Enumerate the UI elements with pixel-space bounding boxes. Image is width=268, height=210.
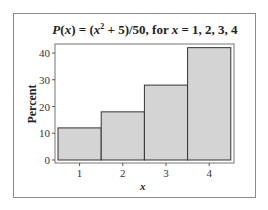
x-tick-label: 1 xyxy=(77,167,83,179)
y-tick-label: 30 xyxy=(39,74,51,86)
y-axis-label: Percent xyxy=(25,74,40,134)
bar-2 xyxy=(101,112,144,160)
x-tick-label: 2 xyxy=(120,167,126,179)
plot-area: 1234010203040 xyxy=(0,0,268,210)
x-tick-label: 4 xyxy=(206,167,212,179)
y-tick-label: 40 xyxy=(39,47,51,59)
y-tick-label: 20 xyxy=(39,101,51,113)
y-tick-label: 10 xyxy=(39,127,51,139)
bar-4 xyxy=(188,48,231,160)
bar-3 xyxy=(144,85,187,160)
bar-1 xyxy=(58,128,101,160)
y-tick-label: 0 xyxy=(45,154,51,166)
x-axis-label: x xyxy=(140,180,146,192)
x-tick-label: 3 xyxy=(163,167,169,179)
